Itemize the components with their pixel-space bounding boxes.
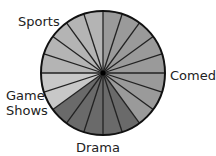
label-game-shows-line2: Shows xyxy=(6,103,48,118)
pie-center-dot xyxy=(101,71,106,76)
label-comedy: Comedy xyxy=(170,68,216,83)
label-drama: Drama xyxy=(76,140,120,155)
label-game-shows-line1: Game xyxy=(6,88,48,103)
label-sports: Sports xyxy=(18,14,60,29)
label-game-shows: Game Shows xyxy=(6,88,48,118)
